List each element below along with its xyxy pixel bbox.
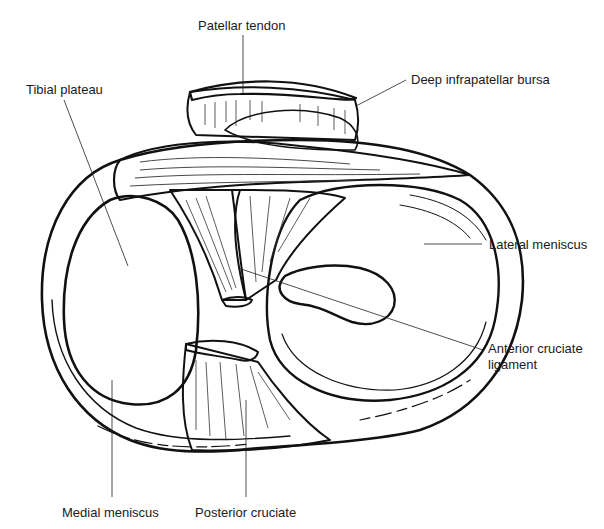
label-patellar-tendon: Patellar tendon — [198, 18, 285, 33]
leader-anterior-cruciate — [238, 268, 483, 350]
label-anterior-cruciate: Anterior cruciate — [488, 341, 583, 356]
leader-tibial-plateau — [64, 100, 128, 266]
posterior-cruciate-ligament — [183, 341, 330, 451]
label-medial-meniscus: Medial meniscus — [62, 505, 159, 520]
label-deep-infrapatellar-bursa: Deep infrapatellar bursa — [411, 72, 550, 87]
leader-lines — [64, 35, 483, 497]
label-tibial-plateau: Tibial plateau — [26, 82, 103, 97]
label-anterior-cruciate-line2: ligament — [488, 357, 537, 372]
lateral-tibial-plateau — [280, 266, 395, 324]
knee-anatomy-figure: Patellar tendon Deep infrapatellar bursa… — [0, 0, 604, 529]
leader-deep-infrapatellar-bursa — [356, 80, 406, 106]
medial-meniscus-inner — [64, 196, 198, 404]
lateral-meniscus — [267, 185, 499, 401]
label-lateral-meniscus: Lateral meniscus — [489, 237, 587, 252]
label-posterior-cruciate: Posterior cruciate — [195, 505, 296, 520]
